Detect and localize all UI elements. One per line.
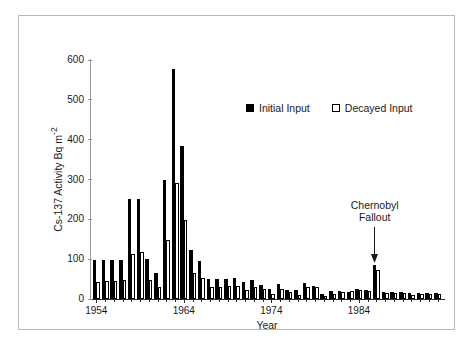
chernobyl-annotation: Chernobyl Fallout — [332, 199, 418, 224]
bar-decayed-input-1993 — [438, 294, 442, 299]
x-axis-tick-minor — [315, 299, 316, 302]
bar-decayed-input-1961 — [158, 287, 162, 299]
x-axis-tick-label: 1984 — [348, 305, 370, 317]
bar-decayed-input-1987 — [385, 293, 389, 299]
bar-decayed-input-1969 — [228, 286, 232, 299]
bar-decayed-input-1974 — [271, 294, 275, 299]
y-axis-tick-label: 0 — [78, 292, 84, 305]
figure-frame: Cs-137 Activity Bq m-2 01002003004005006… — [18, 15, 455, 330]
figure: Cs-137 Activity Bq m-2 01002003004005006… — [0, 0, 472, 347]
bar-decayed-input-1963 — [175, 183, 179, 299]
x-axis-tick-minor — [394, 299, 395, 302]
x-axis-tick-minor — [175, 299, 176, 302]
legend-item-decayed-input: Decayed Input — [332, 101, 413, 115]
x-axis-tick-minor — [210, 299, 211, 302]
bar-decayed-input-1955 — [105, 281, 109, 299]
x-axis-tick-minor — [298, 299, 299, 302]
y-axis-tick-mark — [88, 99, 92, 100]
y-axis-tick-mark — [88, 259, 92, 260]
bar-decayed-input-1967 — [210, 287, 214, 299]
x-axis-tick-minor — [201, 299, 202, 302]
bar-decayed-input-1956 — [114, 281, 118, 299]
y-axis-tick-mark — [88, 299, 92, 300]
bar-decayed-input-1978 — [306, 287, 310, 299]
x-axis-tick-minor — [245, 299, 246, 302]
bar-decayed-input-1988 — [394, 293, 398, 299]
x-axis-tick-label: 1964 — [173, 305, 195, 317]
open-square-icon — [332, 104, 340, 112]
filled-square-icon — [246, 104, 254, 112]
bar-decayed-input-1965 — [193, 273, 197, 299]
y-axis-tick-label: 200 — [67, 212, 84, 225]
x-axis-tick-major — [359, 299, 360, 303]
x-axis-tick-minor — [333, 299, 334, 302]
bar-decayed-input-1970 — [236, 286, 240, 299]
bar-decayed-input-1975 — [280, 289, 284, 299]
x-axis-title: Year — [91, 318, 443, 332]
y-axis-title-text: Cs-137 Activity Bq m — [52, 135, 64, 232]
chernobyl-annotation-line1: Chernobyl — [332, 199, 418, 212]
x-axis-tick-label: 1974 — [260, 305, 282, 317]
bar-decayed-input-1957 — [123, 280, 127, 299]
bar-decayed-input-1973 — [263, 289, 267, 299]
x-axis-tick-minor — [166, 299, 167, 302]
bar-decayed-input-1991 — [420, 294, 424, 299]
bar-decayed-input-1976 — [289, 292, 293, 299]
y-axis-title: Cs-137 Activity Bq m-2 — [47, 60, 61, 299]
bar-decayed-input-1986 — [376, 270, 380, 299]
bar-decayed-input-1992 — [429, 294, 433, 299]
x-axis-line — [90, 299, 445, 300]
x-axis-tick-minor — [140, 299, 141, 302]
bar-decayed-input-1980 — [324, 296, 328, 299]
legend-item-initial-input: Initial Input — [246, 101, 310, 115]
x-axis-tick-minor — [105, 299, 106, 302]
bar-decayed-input-1981 — [333, 294, 337, 299]
y-axis-tick-mark — [88, 219, 92, 220]
bar-decayed-input-1989 — [403, 293, 407, 299]
x-axis-tick-minor — [158, 299, 159, 302]
x-axis-tick-minor — [263, 299, 264, 302]
bar-decayed-input-1979 — [315, 287, 319, 299]
y-axis-tick-label: 400 — [67, 133, 84, 146]
bar-decayed-input-1962 — [166, 240, 170, 299]
x-axis-tick-minor — [228, 299, 229, 302]
x-axis-tick-major — [96, 299, 97, 303]
y-axis-tick-mark — [88, 139, 92, 140]
bar-decayed-input-1964 — [184, 220, 188, 299]
x-axis-tick-minor — [376, 299, 377, 302]
x-axis-tick-major — [184, 299, 185, 303]
x-axis-tick-minor — [411, 299, 412, 302]
bar-decayed-input-1985 — [368, 291, 372, 299]
y-axis-title-exponent: -2 — [49, 127, 59, 135]
x-axis-tick-minor — [306, 299, 307, 302]
x-axis-tick-minor — [123, 299, 124, 302]
y-axis-tick-label: 100 — [67, 252, 84, 265]
y-axis-tick-label: 600 — [67, 53, 84, 66]
x-axis-tick-minor — [403, 299, 404, 302]
legend-label-decayed-input: Decayed Input — [345, 101, 413, 115]
y-axis-tick-mark — [88, 60, 92, 61]
x-axis-tick-minor — [438, 299, 439, 302]
bar-decayed-input-1954 — [96, 282, 100, 299]
plot-area: 0100200300400500600 1954196419741984 — [91, 60, 443, 299]
bar-decayed-input-1958 — [131, 254, 135, 299]
chernobyl-arrow-icon — [370, 227, 379, 263]
y-axis-tick-label: 500 — [67, 93, 84, 106]
x-axis-tick-minor — [350, 299, 351, 302]
bar-decayed-input-1971 — [245, 290, 249, 299]
bar-decayed-input-1959 — [140, 252, 144, 299]
x-axis-tick-minor — [324, 299, 325, 302]
x-axis-tick-minor — [368, 299, 369, 302]
bar-decayed-input-1972 — [254, 287, 258, 299]
bar-decayed-input-1966 — [201, 278, 205, 299]
x-axis-tick-minor — [149, 299, 150, 302]
x-axis-tick-major — [271, 299, 272, 303]
bar-decayed-input-1984 — [359, 290, 363, 299]
chernobyl-annotation-line2: Fallout — [332, 211, 418, 224]
bar-decayed-input-1960 — [149, 280, 153, 299]
x-axis-tick-minor — [429, 299, 430, 302]
x-axis-tick-minor — [385, 299, 386, 302]
x-axis-tick-minor — [131, 299, 132, 302]
x-axis-tick-minor — [193, 299, 194, 302]
y-axis-tick-mark — [88, 179, 92, 180]
